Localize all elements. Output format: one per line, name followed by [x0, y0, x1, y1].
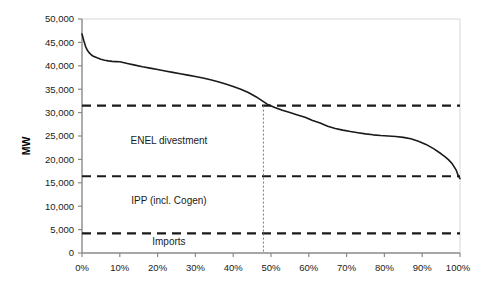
y-tick-label-40000: 40,000 [45, 60, 74, 71]
x-tick-label-90: 90% [413, 262, 433, 273]
x-tick-label-30: 30% [186, 262, 206, 273]
x-tick-label-70: 70% [337, 262, 357, 273]
y-tick-label-10000: 10,000 [45, 201, 74, 212]
imports-label: Imports [152, 236, 185, 247]
y-axis-title-group: MW [20, 137, 32, 156]
load-duration-chart: 0 5,000 10,000 15,000 20,000 25,000 30,0… [0, 0, 497, 292]
reference-lines [82, 106, 460, 234]
enel-divestment-label: ENEL divestment [130, 135, 207, 146]
y-tick-label-0: 0 [69, 247, 74, 258]
x-tick-label-80: 80% [375, 262, 395, 273]
x-tick-label-100: 100% [446, 262, 471, 273]
x-axis: 0% 10% 20% 30% 40% 50% 60% 70% 80% 90% 1… [75, 253, 471, 273]
x-tick-label-60: 60% [299, 262, 319, 273]
chart-container: 0 5,000 10,000 15,000 20,000 25,000 30,0… [0, 0, 497, 292]
y-tick-label-50000: 50,000 [45, 13, 74, 24]
y-axis-title: MW [20, 137, 32, 156]
x-tick-label-10: 10% [110, 262, 130, 273]
x-tick-label-20: 20% [148, 262, 168, 273]
y-axis: 0 5,000 10,000 15,000 20,000 25,000 30,0… [45, 13, 82, 258]
y-tick-label-20000: 20,000 [45, 154, 74, 165]
y-tick-label-15000: 15,000 [45, 177, 74, 188]
y-tick-label-30000: 30,000 [45, 107, 74, 118]
y-tick-label-5000: 5,000 [50, 224, 74, 235]
y-tick-label-25000: 25,000 [45, 130, 74, 141]
x-tick-label-40: 40% [224, 262, 244, 273]
y-tick-label-45000: 45,000 [45, 37, 74, 48]
x-tick-label-0: 0% [75, 262, 89, 273]
x-tick-label-50: 50% [261, 262, 281, 273]
y-tick-label-35000: 35,000 [45, 84, 74, 95]
ipp-cogen-label: IPP (incl. Cogen) [131, 195, 206, 206]
